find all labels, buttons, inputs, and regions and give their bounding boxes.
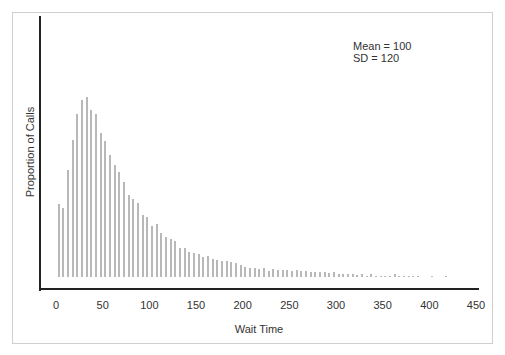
bar [86,97,88,277]
bar [240,265,242,277]
bar [81,100,83,277]
x-tick-label: 150 [187,299,205,311]
bar [398,276,400,277]
bar [370,274,372,277]
bar [291,271,293,277]
bar [76,114,78,277]
bar [431,276,433,277]
bar [319,272,321,277]
bar [104,141,106,277]
x-axis-label: Wait Time [235,323,284,335]
bar [170,239,172,277]
bar [95,114,97,277]
bar [137,203,139,277]
bar [226,261,228,277]
bar [184,248,186,277]
bar [417,276,419,277]
bar [254,268,256,277]
bar [380,276,382,277]
bar [412,276,414,277]
bar [193,253,195,277]
bar [286,270,288,277]
bar [123,182,125,277]
bar [160,233,162,277]
bar [90,110,92,277]
bar [310,272,312,277]
bar [389,276,391,277]
bar [338,274,340,277]
mean-annotation: Mean = 100 [353,40,411,52]
bar [62,208,64,277]
x-tick-label: 50 [97,299,109,311]
bar [342,274,344,277]
bar [277,270,279,277]
bar [174,241,176,277]
x-tick-label: 350 [373,299,391,311]
bar [300,271,302,277]
bar [216,260,218,277]
bar [118,172,120,277]
bar [72,140,74,277]
bar [314,272,316,277]
bar [394,274,396,277]
bar [347,274,349,277]
bar [142,215,144,277]
x-tick-label: 450 [467,299,485,311]
bar [282,270,284,277]
bar [375,276,377,277]
bar [188,252,190,277]
x-tick-label: 100 [140,299,158,311]
bar [263,268,265,277]
bar [328,273,330,277]
bar [235,263,237,277]
bar [165,237,167,277]
bar [272,269,274,277]
x-tick-label: 250 [280,299,298,311]
x-tick-label: 400 [420,299,438,311]
bar [212,259,214,277]
bar [333,272,335,277]
bar [324,272,326,277]
bar [258,269,260,277]
bar [109,155,111,277]
bar [244,267,246,277]
bar [445,276,447,277]
bar [198,254,200,277]
bar [221,261,223,277]
y-axis-label: Proportion of Calls [24,107,36,198]
bar [403,276,405,277]
bar [384,276,386,277]
bar [132,199,134,277]
bar [58,204,60,277]
bar [230,262,232,277]
x-tick-label: 0 [53,299,59,311]
bar [366,276,368,277]
bar [268,271,270,277]
bar [296,270,298,277]
bar [408,276,410,277]
bar [305,271,307,277]
bar [146,217,148,277]
bar [179,248,181,277]
bar [202,257,204,277]
bar [352,274,354,277]
x-tick-label: 300 [327,299,345,311]
sd-annotation: SD = 120 [353,52,411,64]
stats-annotation: Mean = 100 SD = 120 [353,40,411,64]
bar [361,274,363,277]
bar [249,268,251,277]
bar [67,170,69,277]
bar [100,133,102,277]
bar [356,275,358,277]
bar [156,224,158,277]
x-tick-label: 200 [233,299,251,311]
bar [207,256,209,277]
bar [151,226,153,277]
bar [114,165,116,277]
bar [128,195,130,277]
